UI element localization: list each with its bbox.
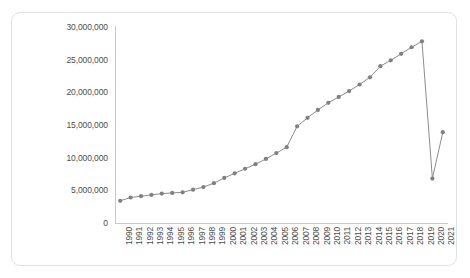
x-tick-label: 1999: [217, 227, 227, 245]
data-point-marker: [399, 52, 403, 56]
data-point-marker: [181, 190, 185, 194]
data-point-marker: [285, 145, 289, 149]
data-point-marker: [201, 185, 205, 189]
data-point-marker: [389, 58, 393, 62]
data-point-marker: [326, 101, 330, 105]
x-tick-label: 2010: [332, 227, 342, 245]
data-point-marker: [441, 130, 445, 134]
data-point-marker: [295, 124, 299, 128]
data-point-marker: [357, 82, 361, 86]
data-point-marker: [170, 191, 174, 195]
x-tick-label: 2014: [374, 227, 384, 245]
x-tick-label: 2004: [269, 227, 279, 245]
data-point-marker: [212, 181, 216, 185]
x-tick-label: 1994: [165, 227, 175, 245]
data-point-marker: [149, 193, 153, 197]
x-tick-label: 2005: [280, 227, 290, 245]
data-point-marker: [264, 157, 268, 161]
x-tick-label: 2007: [301, 227, 311, 245]
chart-card: 30,000,00025,000,00020,000,00015,000,000…: [11, 12, 457, 266]
x-tick-label: 2001: [238, 227, 248, 245]
data-point-marker: [274, 151, 278, 155]
x-tick-label: 2020: [436, 227, 446, 245]
x-tick-label: 2000: [228, 227, 238, 245]
data-point-marker: [222, 176, 226, 180]
x-tick-label: 2013: [363, 227, 373, 245]
x-tick-label: 2009: [322, 227, 332, 245]
data-point-marker: [337, 95, 341, 99]
data-point-marker: [420, 39, 424, 43]
x-tick-label: 1997: [197, 227, 207, 245]
data-point-marker: [191, 188, 195, 192]
x-tick-label: 1998: [207, 227, 217, 245]
data-point-marker: [347, 89, 351, 93]
x-tick-label: 1993: [155, 227, 165, 245]
x-tick-label: 1991: [134, 227, 144, 245]
data-point-marker: [368, 75, 372, 79]
data-point-marker: [305, 116, 309, 120]
x-tick-label: 2003: [259, 227, 269, 245]
data-point-marker: [243, 167, 247, 171]
data-point-marker: [378, 64, 382, 68]
data-point-marker: [118, 199, 122, 203]
x-tick-label: 2011: [342, 227, 352, 244]
x-tick-label: 2015: [384, 227, 394, 245]
series-line: [120, 41, 443, 200]
x-tick-label: 2021: [446, 227, 456, 245]
data-point-marker: [316, 108, 320, 112]
x-tick-label: 2019: [426, 227, 436, 245]
x-tick-label: 2018: [415, 227, 425, 245]
x-tick-label: 2016: [394, 227, 404, 245]
x-tick-label: 2012: [353, 227, 363, 245]
x-tick-label: 1992: [145, 227, 155, 245]
x-tick-label: 1996: [186, 227, 196, 245]
x-axis: 1990199119921993199419951996199719981999…: [115, 227, 448, 267]
data-point-marker: [409, 45, 413, 49]
line-chart: 30,000,00025,000,00020,000,00015,000,000…: [12, 13, 458, 267]
data-point-marker: [139, 194, 143, 198]
x-tick-label: 2006: [290, 227, 300, 245]
x-tick-label: 1995: [176, 227, 186, 245]
data-point-marker: [129, 195, 133, 199]
x-tick-label: 2002: [249, 227, 259, 245]
data-point-marker: [160, 192, 164, 196]
data-point-marker: [430, 176, 434, 180]
x-tick-label: 2017: [405, 227, 415, 245]
x-tick-label: 1990: [124, 227, 134, 245]
data-point-marker: [233, 171, 237, 175]
data-point-marker: [253, 162, 257, 166]
x-tick-label: 2008: [311, 227, 321, 245]
